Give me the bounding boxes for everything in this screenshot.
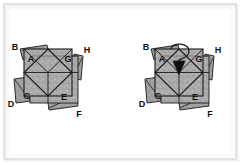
folding-diagram-figure: B A G H C D E F <box>0 0 242 165</box>
right-label-h: H <box>215 45 222 55</box>
left-label-f: F <box>76 109 82 119</box>
left-label-g: G <box>64 54 71 64</box>
left-label-d: D <box>8 99 15 109</box>
right-label-d: D <box>139 99 146 109</box>
left-label-h: H <box>84 45 91 55</box>
right-label-f: F <box>207 109 213 119</box>
right-label-c: C <box>155 91 162 101</box>
left-label-e: E <box>61 92 67 102</box>
right-label-e: E <box>192 92 198 102</box>
left-label-c: C <box>24 91 31 101</box>
left-label-b: B <box>12 42 19 52</box>
left-label-a: A <box>28 54 35 64</box>
right-label-g: G <box>195 54 202 64</box>
right-label-b: B <box>143 42 150 52</box>
right-label-a: A <box>159 54 166 64</box>
